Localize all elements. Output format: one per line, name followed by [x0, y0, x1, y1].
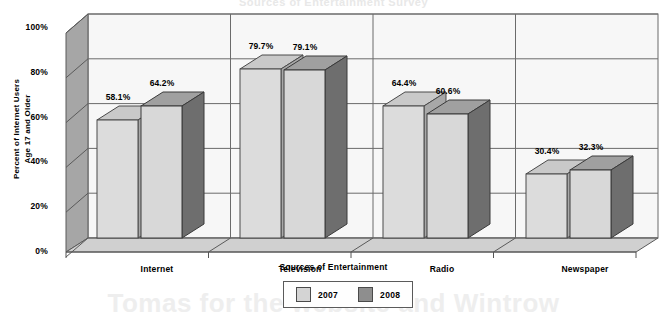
- y-tick-label: 80%: [8, 67, 48, 77]
- data-label-radio-2008: 60.6%: [426, 86, 470, 96]
- y-tick-label: 0%: [8, 246, 48, 256]
- y-tick-label: 20%: [8, 201, 48, 211]
- y-tick-label: 60%: [8, 112, 48, 122]
- bar-internet-2008[interactable]: [141, 92, 204, 238]
- data-label-television-2007: 79.7%: [239, 41, 283, 51]
- bar-group-newspaper: [526, 156, 633, 238]
- bar-group-television: [240, 55, 347, 238]
- legend-item-2007[interactable]: 2007: [296, 287, 338, 302]
- y-tick-label: 100%: [8, 22, 48, 32]
- data-label-newspaper-2008: 32.3%: [569, 142, 613, 152]
- data-label-radio-2007: 64.4%: [382, 78, 426, 88]
- axis-left-wall: [66, 14, 88, 252]
- data-label-internet-2007: 58.1%: [96, 92, 140, 102]
- bar-group-radio: [383, 92, 490, 238]
- x-axis-ticks: [66, 252, 636, 258]
- bar-television-2008[interactable]: [284, 56, 347, 238]
- data-label-newspaper-2007: 30.4%: [525, 146, 569, 156]
- data-label-television-2008: 79.1%: [283, 42, 327, 52]
- legend-label-2007: 2007: [318, 290, 338, 300]
- chart-container: Sources of Entertainment Survey Tomas fo…: [0, 0, 667, 324]
- data-label-internet-2008: 64.2%: [140, 78, 184, 88]
- bar-radio-2008[interactable]: [427, 100, 490, 238]
- legend-swatch-2007: [296, 287, 311, 302]
- legend-item-2008[interactable]: 2008: [358, 287, 400, 302]
- y-tick-label: 40%: [8, 156, 48, 166]
- chart-legend: 2007 2008: [283, 281, 413, 308]
- bar-group-internet: [97, 92, 204, 238]
- legend-label-2008: 2008: [380, 290, 400, 300]
- bar-newspaper-2008[interactable]: [570, 156, 633, 238]
- y-axis-tick-labels: 100% 80% 60% 40% 20% 0%: [6, 0, 48, 324]
- x-axis-title: Sources of Entertainment: [0, 262, 667, 272]
- plot-area: [0, 0, 667, 324]
- legend-swatch-2008: [358, 287, 373, 302]
